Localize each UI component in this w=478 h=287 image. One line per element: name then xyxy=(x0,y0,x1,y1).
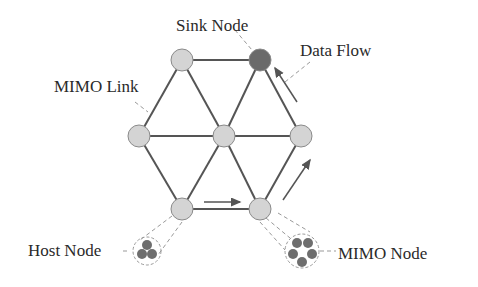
data-flow-label: Data Flow xyxy=(300,42,371,59)
host-node-label: Host Node xyxy=(28,242,101,259)
node-top-left xyxy=(171,49,193,71)
node-bottom-right xyxy=(249,198,271,220)
host-node-cluster xyxy=(133,237,161,265)
mimo-node-cluster xyxy=(285,234,319,268)
nodes xyxy=(128,49,312,220)
node-right xyxy=(290,125,312,147)
node-bottom-left xyxy=(171,198,193,220)
node-center xyxy=(213,125,235,147)
sink-node xyxy=(249,49,271,71)
node-left xyxy=(128,125,150,147)
sink-node-label: Sink Node xyxy=(176,17,248,34)
mimo-link-label: MIMO Link xyxy=(54,78,139,95)
mimo-node-label: MIMO Node xyxy=(338,245,427,262)
